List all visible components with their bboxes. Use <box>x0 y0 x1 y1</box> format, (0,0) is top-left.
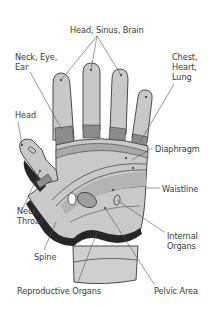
label-spine: Spine <box>34 252 56 262</box>
ring-finger <box>110 69 128 134</box>
hand-reflexology-diagram <box>0 0 208 312</box>
label-head: Head <box>15 110 36 120</box>
label-head-sinus-brain: Head, Sinus, Brain <box>70 25 144 35</box>
middle-finger <box>83 63 100 130</box>
fingers <box>53 63 152 148</box>
label-neck-eye-ear: Neck, Eye, Ear <box>15 52 57 72</box>
label-waistline: Waistline <box>162 184 198 194</box>
label-pelvic-area: Pelvic Area <box>154 286 198 296</box>
label-internal-organs: Internal Organs <box>167 231 198 251</box>
label-chest-heart-lung: Chest, Heart, Lung <box>172 52 197 82</box>
wrist <box>73 246 138 284</box>
label-reproductive-organs: Reproductive Organs <box>17 286 101 296</box>
label-diaphragm: Diaphragm <box>155 144 200 154</box>
label-neck-throat: Neck, Throat <box>17 206 43 226</box>
